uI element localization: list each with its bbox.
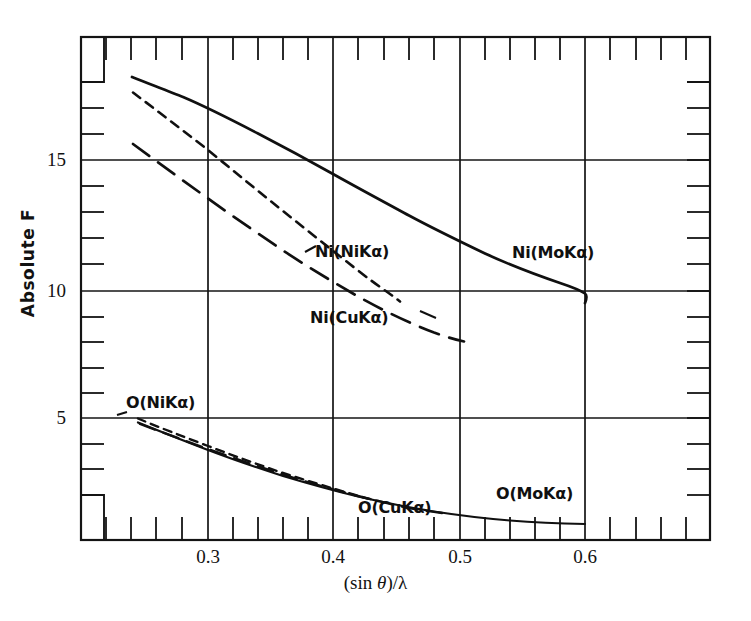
x-axis-title-prefix: (sin (344, 572, 377, 593)
plot-frame (81, 37, 710, 540)
y-tick-label-15: 15 (36, 149, 66, 171)
curve-label-ni-cu: Ni(CuKα) (310, 308, 388, 327)
gridlines-major (81, 37, 710, 540)
curve-label-o-mo: O(MoKα) (496, 484, 573, 503)
x-tick-label-0.5: 0.5 (448, 546, 472, 568)
series-lines (132, 77, 587, 524)
series-curve-ni-ni (133, 93, 400, 302)
x-axis-title-suffix: )/λ (386, 572, 407, 593)
x-tick-label-0.4: 0.4 (321, 546, 345, 568)
ticks-bottom (106, 517, 686, 540)
y-axis-title: Absolute F (18, 173, 38, 353)
x-axis-title-theta: θ (377, 572, 386, 593)
x-tick-label-0.6: 0.6 (573, 546, 597, 568)
x-axis-title: (sin θ)/λ (0, 572, 751, 594)
series-curve-ni-mo (132, 77, 587, 303)
ticks-top (106, 37, 686, 60)
series-curve-o-ni (138, 419, 378, 502)
curve-label-o-ni: O(NiKα) (126, 393, 195, 412)
label-leader-strokes (117, 246, 436, 415)
corner-notches (81, 37, 710, 540)
curve-label-o-cu: O(CuKα) (358, 498, 431, 517)
curve-label-ni-ni: Ni(NiKα) (315, 242, 389, 261)
y-tick-label-10: 10 (36, 280, 66, 302)
ticks-left (81, 82, 104, 495)
series-curve-ni-cu (133, 144, 464, 342)
figure-container: Absolute F 15 10 5 0.3 0.4 0.5 0.6 (sin … (0, 0, 751, 621)
y-tick-label-5: 5 (36, 407, 66, 429)
x-tick-label-0.3: 0.3 (196, 546, 220, 568)
curve-label-ni-mo: Ni(MoKα) (512, 243, 594, 262)
ticks-right (687, 82, 710, 495)
